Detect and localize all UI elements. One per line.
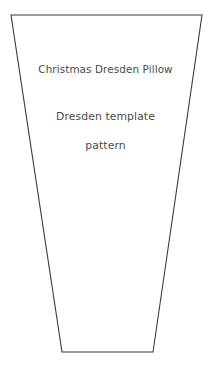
dresden-template-shape	[0, 0, 211, 365]
pattern-sheet: Christmas Dresden Pillow Dresden templat…	[0, 0, 211, 365]
trapezoid-outline	[11, 15, 202, 352]
